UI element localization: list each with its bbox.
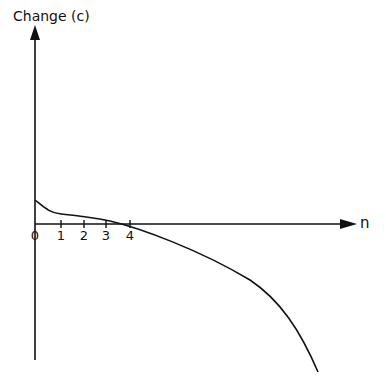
- x-axis-arrow-icon: [340, 219, 357, 229]
- y-axis-arrow-icon: [30, 25, 40, 40]
- x-tick-label: 2: [80, 228, 88, 243]
- x-tick-label: 4: [126, 228, 134, 243]
- chart-plot: [0, 0, 386, 387]
- x-tick-label: 1: [57, 228, 65, 243]
- x-tick-label: 0: [31, 228, 39, 243]
- data-curve: [35, 200, 318, 372]
- x-tick-label: 3: [102, 228, 110, 243]
